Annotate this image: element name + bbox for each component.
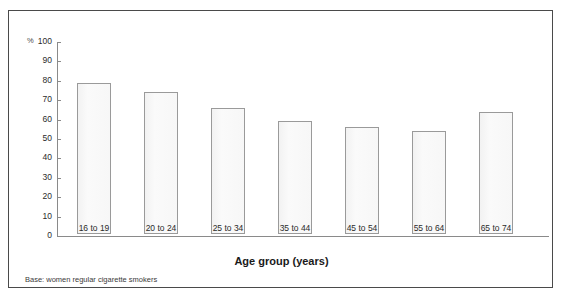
bar-series: 7816 to 197320 to 246525 to 345835 to 44… <box>9 11 552 287</box>
x-axis-category-label: 25 to 34 <box>195 223 261 234</box>
x-axis-category-label: 55 to 64 <box>396 223 462 234</box>
plot-area: % 1009080706050403020100 7816 to 197320 … <box>9 11 552 287</box>
x-axis-category-label: 45 to 54 <box>329 223 395 234</box>
x-axis-category-label: 20 to 24 <box>128 223 194 234</box>
bar[interactable] <box>479 112 513 234</box>
x-axis-title: Age group (years) <box>9 255 554 267</box>
bar[interactable] <box>144 92 178 234</box>
bar[interactable] <box>211 108 245 234</box>
x-axis-category-label: 16 to 19 <box>61 223 127 234</box>
base-note: Base: women regular cigarette smokers <box>25 275 157 285</box>
bar[interactable] <box>412 131 446 234</box>
x-axis-category-label: 35 to 44 <box>262 223 328 234</box>
bar[interactable] <box>278 121 312 234</box>
x-axis-category-label: 65 to 74 <box>463 223 529 234</box>
bar[interactable] <box>345 127 379 234</box>
bar[interactable] <box>77 83 111 234</box>
chart-frame: % 1009080706050403020100 7816 to 197320 … <box>8 10 553 288</box>
